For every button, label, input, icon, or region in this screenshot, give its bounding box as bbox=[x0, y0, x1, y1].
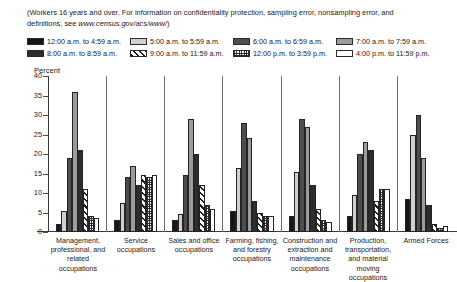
x-axis-category-label: Production, transportation, and material… bbox=[339, 236, 397, 282]
y-axis-tick-mark bbox=[43, 213, 48, 214]
bar[interactable] bbox=[443, 226, 448, 232]
legend-item[interactable]: 8:00 a.m. to 8:59 a.m. bbox=[27, 49, 130, 58]
swatch-white-icon bbox=[336, 50, 353, 57]
x-axis-category-label: Armed Forces bbox=[397, 236, 455, 282]
bar[interactable] bbox=[268, 216, 273, 232]
legend-item[interactable]: 4:00 p.m. to 11:59 p.m. bbox=[336, 49, 439, 58]
legend-item[interactable]: 9:00 a.m. to 11:59 a.m. bbox=[130, 49, 233, 58]
y-axis-tick-mark bbox=[43, 232, 48, 233]
note-text-after: ) bbox=[167, 19, 169, 28]
chart-source-note: (Workers 16 years and over. For informat… bbox=[27, 8, 427, 29]
legend-item-label: 12:00 p.m. to 3:59 p.m. bbox=[253, 49, 327, 58]
y-axis-tick-mark bbox=[43, 96, 48, 97]
legend-item-label: 12:00 a.m. to 4:59 a.m. bbox=[47, 37, 121, 46]
x-axis-category-label: Farming, fishing, and forestry occupatio… bbox=[223, 236, 281, 282]
bar-group bbox=[223, 76, 281, 232]
swatch-checkerboard-icon bbox=[233, 50, 250, 57]
bar-group bbox=[49, 76, 107, 232]
swatch-black-icon bbox=[27, 38, 44, 45]
legend-item-label: 4:00 p.m. to 11:59 p.m. bbox=[356, 49, 429, 58]
x-axis-category-label: Construction and extraction and maintena… bbox=[281, 236, 339, 282]
bar-groups bbox=[49, 76, 455, 232]
y-axis-tick-mark bbox=[43, 135, 48, 136]
y-axis-tick-mark bbox=[43, 115, 48, 116]
legend-item[interactable]: 12:00 a.m. to 4:59 a.m. bbox=[27, 37, 130, 46]
legend-item[interactable]: 5:00 a.m. to 5:59 a.m. bbox=[130, 37, 233, 46]
bar[interactable] bbox=[384, 189, 389, 232]
legend-item-label: 7:00 a.m. to 7:59 a.m. bbox=[356, 37, 426, 46]
y-axis-tick-label: 25 bbox=[18, 131, 42, 138]
bar-group bbox=[282, 76, 340, 232]
y-axis-tick-label: 0 bbox=[18, 228, 42, 235]
legend-item[interactable]: 12:00 p.m. to 3:59 p.m. bbox=[233, 49, 336, 58]
x-axis-category-label: Sales and office occupations bbox=[165, 236, 223, 282]
y-axis-tick-label: 15 bbox=[18, 170, 42, 177]
bar-group bbox=[107, 76, 165, 232]
swatch-medium-gray-icon bbox=[336, 38, 353, 45]
y-axis-tick-label: 10 bbox=[18, 189, 42, 196]
legend-item[interactable]: 6:00 a.m. to 6:59 a.m. bbox=[233, 37, 336, 46]
chart-plot-area: 4035302520151050 bbox=[18, 76, 438, 234]
y-axis-tick-label: 35 bbox=[18, 92, 42, 99]
y-axis-tick-label: 30 bbox=[18, 111, 42, 118]
legend-item[interactable]: 7:00 a.m. to 7:59 a.m. bbox=[336, 37, 439, 46]
y-axis-tick-mark bbox=[43, 193, 48, 194]
bar[interactable] bbox=[210, 209, 215, 232]
bar-group bbox=[165, 76, 223, 232]
y-axis-tick-mark bbox=[43, 154, 48, 155]
x-axis-category-label: Management, professional, and related oc… bbox=[49, 236, 107, 282]
y-axis-tick-label: 20 bbox=[18, 150, 42, 157]
y-axis-tick-mark bbox=[43, 76, 48, 77]
census-url-link[interactable]: www.census.gov/acs/www/ bbox=[78, 19, 167, 28]
bar[interactable] bbox=[94, 218, 99, 232]
y-axis-tick-label: 40 bbox=[18, 72, 42, 79]
x-axis-category-labels: Management, professional, and related oc… bbox=[49, 236, 455, 282]
legend-item-label: 8:00 a.m. to 8:59 a.m. bbox=[47, 49, 117, 58]
legend-item-label: 6:00 a.m. to 6:59 a.m. bbox=[253, 37, 323, 46]
swatch-dark-gray-icon bbox=[233, 38, 250, 45]
bar[interactable] bbox=[326, 222, 331, 232]
bar-group bbox=[340, 76, 398, 232]
y-axis-tick-mark bbox=[43, 174, 48, 175]
bar[interactable] bbox=[152, 175, 157, 232]
swatch-deep-gray-icon bbox=[27, 50, 44, 57]
chart-legend: 12:00 a.m. to 4:59 a.m.5:00 a.m. to 5:59… bbox=[27, 35, 439, 59]
swatch-diagonal-hatch-icon bbox=[130, 50, 147, 57]
y-axis-tick-label: 5 bbox=[18, 209, 42, 216]
bar-group bbox=[398, 76, 455, 232]
x-axis-category-label: Service occupations bbox=[107, 236, 165, 282]
swatch-light-gray-icon bbox=[130, 38, 147, 45]
legend-item-label: 5:00 a.m. to 5:59 a.m. bbox=[150, 37, 220, 46]
legend-item-label: 9:00 a.m. to 11:59 a.m. bbox=[150, 49, 223, 58]
